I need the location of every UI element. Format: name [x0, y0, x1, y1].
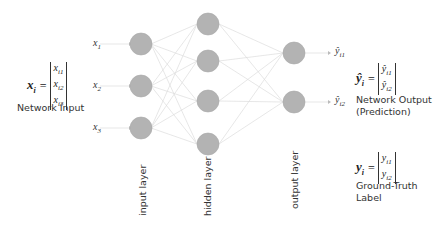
equals-sign: = [40, 79, 47, 94]
hidden-layer-label: hidden layer [202, 157, 213, 216]
input-label-x2: x2 [93, 79, 101, 93]
input-node-2 [130, 75, 152, 97]
output-label-y2: ŷi2 [335, 94, 345, 108]
network-output-caption-line2: (Prediction) [356, 106, 432, 118]
output-vector-symbol: ŷi [356, 70, 364, 88]
ground-truth-caption-line1: Ground-Truth [356, 180, 418, 192]
network-input-caption: Network Input [17, 102, 84, 114]
input-label-x3: x3 [93, 121, 101, 135]
equals-sign: = [368, 72, 375, 87]
network-output-caption-line1: Network Output [356, 94, 432, 106]
hidden-node-2 [197, 50, 219, 72]
output-vector-equation: ŷi = ŷi1 ŷi2 [356, 63, 396, 95]
output-vector-matrix: ŷi1 ŷi2 [378, 63, 396, 95]
ground-truth-caption-line2: Label [356, 192, 418, 204]
input-node-1 [130, 33, 152, 55]
hidden-node-4 [197, 133, 219, 155]
equals-sign: = [368, 161, 375, 176]
input-label-x1: x1 [93, 37, 101, 51]
output-node-1 [283, 42, 305, 64]
nodes [130, 13, 305, 155]
network-output-caption: Network Output (Prediction) [356, 94, 432, 118]
hidden-node-1 [197, 13, 219, 35]
ground-truth-vector-symbol: yi [356, 159, 364, 177]
input-layer-label: input layer [137, 165, 148, 216]
input-vector-symbol: xi [27, 77, 36, 95]
input-node-3 [130, 117, 152, 139]
ground-truth-caption: Ground-Truth Label [356, 180, 418, 204]
output-layer-label: output layer [289, 151, 300, 209]
hidden-node-3 [197, 90, 219, 112]
output-label-y1: ŷi1 [335, 45, 345, 59]
output-node-2 [283, 91, 305, 113]
